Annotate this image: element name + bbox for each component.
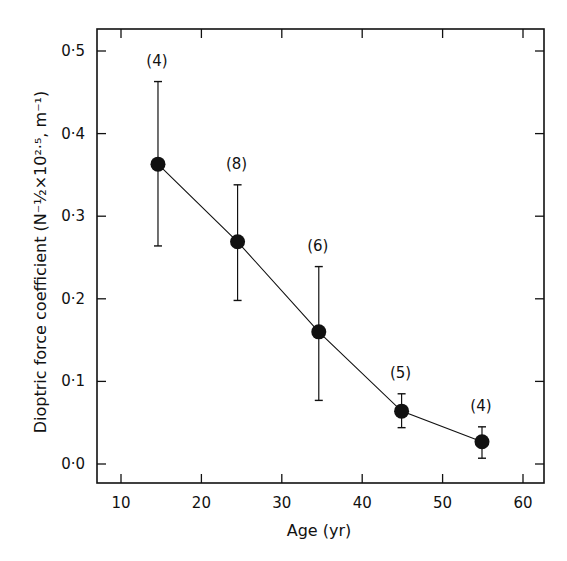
data-point-marker bbox=[150, 157, 165, 172]
y-tick-label: 0·5 bbox=[61, 42, 85, 60]
sample-size-annotation: (8) bbox=[226, 155, 247, 173]
data-point-marker bbox=[230, 234, 245, 249]
data-point-marker bbox=[474, 434, 489, 449]
y-axis-title: Dioptric force coefficient (N⁻½×10²·⁵, m… bbox=[31, 91, 50, 433]
plot-frame bbox=[97, 29, 544, 483]
data-series: (4)(8)(6)(5)(4) bbox=[146, 52, 491, 459]
y-tick-label: 0·0 bbox=[61, 455, 85, 473]
x-axis-title: Age (yr) bbox=[287, 521, 352, 540]
y-tick-label: 0·3 bbox=[61, 207, 85, 225]
x-axis-ticks: 102030405060 bbox=[111, 29, 532, 512]
x-tick-label: 30 bbox=[272, 494, 291, 512]
data-point-marker bbox=[311, 324, 326, 339]
x-tick-label: 60 bbox=[513, 494, 532, 512]
data-point-marker bbox=[394, 404, 409, 419]
plot-border bbox=[97, 29, 544, 483]
sample-size-annotation: (5) bbox=[390, 364, 411, 382]
x-tick-label: 10 bbox=[111, 494, 130, 512]
y-tick-label: 0·4 bbox=[61, 125, 85, 143]
chart: 0·00·10·20·30·40·5 102030405060 (4)(8)(6… bbox=[0, 0, 567, 561]
sample-size-annotation: (4) bbox=[146, 52, 167, 70]
sample-size-annotation: (4) bbox=[470, 397, 491, 415]
x-tick-label: 20 bbox=[192, 494, 211, 512]
x-tick-label: 50 bbox=[433, 494, 452, 512]
x-tick-label: 40 bbox=[353, 494, 372, 512]
y-tick-label: 0·1 bbox=[61, 372, 85, 390]
sample-size-annotation: (6) bbox=[307, 237, 328, 255]
y-tick-label: 0·2 bbox=[61, 290, 85, 308]
